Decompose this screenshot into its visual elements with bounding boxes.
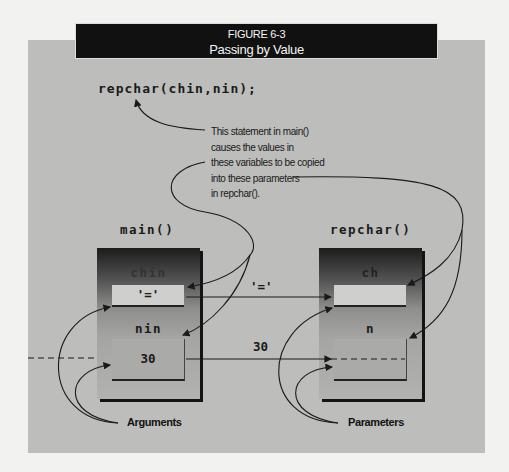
parameters-arrow-n (296, 367, 338, 423)
arrow-to-chin (171, 162, 253, 287)
statement-pointer-arrow (136, 100, 205, 130)
arrow-to-n (410, 230, 462, 338)
arguments-arrow-nin (75, 365, 118, 423)
arrow-to-ch (293, 177, 463, 285)
parameters-arrow-ch (279, 308, 338, 423)
connector-arrows (0, 0, 509, 472)
